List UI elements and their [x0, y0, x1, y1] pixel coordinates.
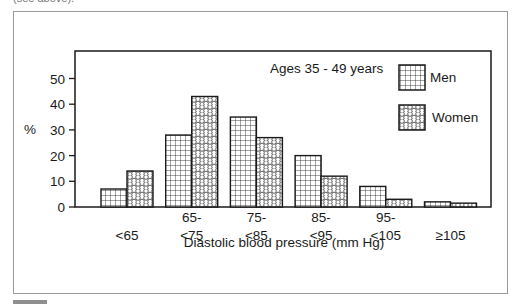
y-tick-label: 30 — [50, 123, 65, 138]
bar-women-5 — [451, 203, 477, 207]
y-axis-title: % — [24, 122, 36, 137]
y-tick-label: 40 — [50, 97, 65, 112]
bar-women-2 — [256, 138, 282, 207]
legend: Men Women — [399, 65, 478, 130]
chart: 01020304050 <6565-<7575-<8585-<9595-<105… — [0, 0, 521, 304]
x-tick-label: 95- — [376, 210, 396, 225]
x-tick-label: 75- — [247, 210, 267, 225]
x-axis-title: Diastolic blood pressure (mm Hg) — [184, 235, 384, 250]
bar-men-0 — [101, 189, 127, 207]
y-tick-label: 0 — [57, 200, 65, 215]
x-tick-label: <65 — [116, 228, 139, 243]
bar-men-1 — [166, 135, 192, 207]
y-tick-label: 20 — [50, 149, 65, 164]
bar-women-3 — [321, 176, 347, 207]
bar-women-0 — [127, 171, 153, 207]
x-tick-label: ≥105 — [436, 228, 466, 243]
y-tick-label: 10 — [50, 174, 65, 189]
bar-women-4 — [386, 199, 412, 207]
bar-men-2 — [230, 117, 256, 207]
y-axis: 01020304050 — [50, 72, 75, 216]
bar-men-4 — [360, 186, 386, 207]
legend-label-men: Men — [430, 70, 456, 85]
legend-swatch-men — [399, 65, 425, 90]
bar-men-5 — [425, 202, 451, 207]
bar-men-3 — [295, 156, 321, 207]
x-tick-label: 65- — [182, 210, 202, 225]
bar-women-1 — [192, 96, 218, 207]
y-tick-label: 50 — [50, 72, 65, 87]
legend-label-women: Women — [432, 110, 478, 125]
legend-swatch-women — [399, 105, 425, 130]
x-tick-label: 85- — [311, 210, 331, 225]
chart-annotation: Ages 35 - 49 years — [270, 61, 384, 76]
